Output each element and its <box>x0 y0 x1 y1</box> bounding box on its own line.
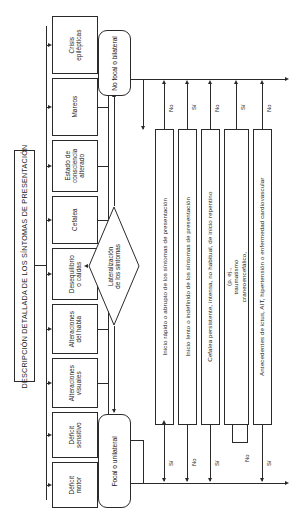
arrow-to-symptom-4 <box>48 218 52 222</box>
edge-decision-to-focal <box>114 326 115 412</box>
bottom-dropper-4c <box>247 425 248 442</box>
edge-label-top-4: Sí <box>240 104 246 110</box>
bottom-bus-arrowhead <box>285 481 289 485</box>
edge-label-bottom-5: Sí <box>266 460 272 466</box>
bottom-dropper-arrow-5 <box>260 478 264 482</box>
top-bus-entry <box>143 79 144 129</box>
symptom-spine <box>46 26 47 500</box>
symptom-box-deficit-sensitivo[interactable]: Déficitsensitivo <box>52 412 98 458</box>
symptom-out-7 <box>98 383 108 384</box>
edge-label-top-1: No <box>168 104 174 112</box>
edge-label-top-5: No <box>266 104 272 112</box>
bottom-bus-entry <box>143 440 144 483</box>
question-label: Antecedentes de ictus, AIT, hipertensión… <box>259 178 266 376</box>
arrow-to-symptom-9 <box>48 483 52 487</box>
question-box-cefalea-persistente[interactable]: Cefalea persistente, intensa, no habitua… <box>201 129 220 425</box>
arrow-to-symptom-6 <box>48 327 52 331</box>
bottom-dropper-2 <box>187 425 188 481</box>
question-box-antecedentes[interactable]: Antecedentes de ictus, AIT, hipertensión… <box>253 129 272 425</box>
symptom-label: Déficitsensitivo <box>68 413 82 457</box>
question-label: Inicio lento o indefinido de los síntoma… <box>184 197 191 356</box>
bottom-dropper-5 <box>262 425 263 481</box>
arrow-to-symptom-3 <box>48 164 52 168</box>
top-riser-arrow-5 <box>260 80 264 84</box>
symptom-label: Estado deconscienciaalterado <box>64 144 86 188</box>
bottom-entry-arrow <box>162 420 166 424</box>
top-riser-arrow-1 <box>162 80 166 84</box>
edge-label-bottom-4: No <box>244 454 250 462</box>
symptom-label: Desequilibrioo caídas <box>68 252 82 296</box>
symptom-label: Mareos <box>71 85 78 129</box>
decision-diamond-lateralizacion[interactable]: Lateralizaciónde los síntomas <box>88 206 140 326</box>
bottom-dropper-1 <box>164 425 165 481</box>
top-riser-arrow-4 <box>234 80 238 84</box>
bottom-dropper-arrow-1 <box>162 478 166 482</box>
top-riser-arrow-2 <box>185 80 189 84</box>
arrow-to-symptom-7 <box>48 381 52 385</box>
arrow-to-focal <box>112 409 116 413</box>
question-label: Inicio rápido o abrupto de los síntomas … <box>161 198 168 356</box>
edge-label-bottom-3: Sí <box>214 460 220 466</box>
terminal-focal-unilateral[interactable]: Focal o unilateral <box>98 414 131 508</box>
symptom-label: Cefalea <box>71 198 78 242</box>
edge-decision-to-no-focal <box>114 96 115 206</box>
diagram-title-box: DESCRIPCIÓN DETALLADA DE LOS SÍNTOMAS DE… <box>14 150 35 382</box>
edge-label-top-2: Sí <box>191 104 197 110</box>
top-bus-arrowhead <box>285 77 289 81</box>
symptom-out-2 <box>98 107 108 108</box>
terminal-label: Focal o unilateral <box>111 436 118 486</box>
bottom-bus-line <box>131 483 286 484</box>
top-bus-entry-arrow <box>141 126 145 130</box>
symptom-box-estado-consciencia[interactable]: Estado deconscienciaalterado <box>52 140 98 192</box>
edge-label-bottom-1: Sí <box>168 460 174 466</box>
bottom-dropper-arrow-2 <box>185 478 189 482</box>
symptom-label: Alteracionesvisuales <box>68 361 82 405</box>
page-title: DESCRIPCIÓN DETALLADA DE LOS SÍNTOMAS DE… <box>20 144 29 388</box>
bottom-bus-entry-h <box>131 440 144 441</box>
question-box-inicio-lento[interactable]: Inicio lento o indefinido de los síntoma… <box>178 129 197 425</box>
question-box-inicio-rapido[interactable]: Inicio rápido o abrupto de los síntomas … <box>155 129 174 425</box>
bottom-dropper-arrow-3 <box>208 478 212 482</box>
bottom-dropper-4b <box>232 442 248 443</box>
top-riser-1 <box>164 82 165 129</box>
symptom-box-mareos[interactable]: Mareos <box>52 78 98 136</box>
top-riser-3 <box>210 82 211 129</box>
question-label: Cefalea persistente, intensa, no habitua… <box>207 192 214 362</box>
edge-label-top-3: No <box>214 104 220 112</box>
symptom-out-6 <box>98 329 108 330</box>
edge-label-bottom-2: No <box>191 458 197 466</box>
flowchart-canvas: DESCRIPCIÓN DETALLADA DE LOS SÍNTOMAS DE… <box>0 0 297 524</box>
symptom-label: Déficitmotor <box>68 463 82 507</box>
top-riser-4 <box>236 82 237 129</box>
top-riser-arrow-3 <box>208 80 212 84</box>
bottom-dropper-3 <box>210 425 211 481</box>
arrow-to-symptom-2 <box>48 105 52 109</box>
symptom-out-3 <box>98 166 108 167</box>
arrow-to-symptom-8 <box>48 433 52 437</box>
terminal-label: No focal o bilateral <box>111 36 118 91</box>
symptom-box-crisis-epilepticas[interactable]: Crisisepilépticas <box>52 16 98 74</box>
top-riser-5 <box>262 82 263 129</box>
title-to-spine-connector <box>35 265 46 266</box>
bottom-dropper-4a <box>232 425 233 442</box>
arrow-to-symptom-1 <box>48 43 52 47</box>
symptom-box-alteraciones-visuales[interactable]: Alteracionesvisuales <box>52 358 98 408</box>
top-riser-2 <box>187 82 188 129</box>
terminal-no-focal-bilateral[interactable]: No focal o bilateral <box>98 30 131 96</box>
arrow-to-symptom-5 <box>48 272 52 276</box>
symptom-label: Alteracionesdel habla <box>68 307 82 351</box>
question-label: Causa evidente de los síntomas (p. ej., … <box>224 252 249 302</box>
question-box-causa-evidente[interactable]: Causa evidente de los síntomas (p. ej., … <box>224 129 249 425</box>
symptom-box-deficit-motor[interactable]: Déficitmotor <box>52 462 98 508</box>
symptom-label: Crisisepilépticas <box>68 23 82 67</box>
